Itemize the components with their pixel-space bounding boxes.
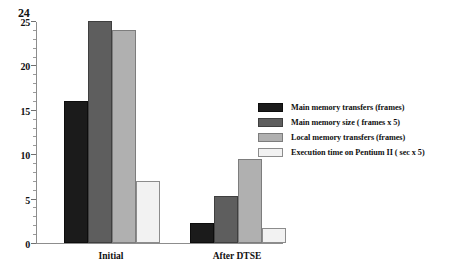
legend-item: Main memory size ( frames x 5) bbox=[258, 115, 454, 130]
x-axis-category-label: After DTSE bbox=[213, 251, 262, 261]
y-tick-minor bbox=[33, 163, 36, 164]
y-tick-minor bbox=[33, 48, 36, 49]
y-tick-minor bbox=[33, 119, 36, 120]
bar bbox=[112, 30, 136, 243]
y-tick-major bbox=[31, 110, 36, 111]
legend-swatch bbox=[258, 148, 283, 157]
legend-label: Main memory transfers (frames) bbox=[291, 103, 404, 112]
legend-label: Execution time on Pentium II ( sec x 5) bbox=[291, 148, 425, 157]
y-tick-major bbox=[31, 243, 36, 244]
y-tick-major bbox=[31, 65, 36, 66]
legend-item: Main memory transfers (frames) bbox=[258, 100, 454, 115]
y-tick-minor bbox=[33, 39, 36, 40]
bar bbox=[238, 159, 262, 243]
legend-item: Local memory transfers (frames) bbox=[258, 130, 454, 145]
y-tick-label: 15 bbox=[20, 105, 30, 116]
y-tick-minor bbox=[33, 225, 36, 226]
bar bbox=[88, 21, 112, 243]
y-tick-minor bbox=[33, 136, 36, 137]
x-axis-category-label: Initial bbox=[99, 251, 124, 261]
bar bbox=[136, 181, 160, 243]
y-tick-major bbox=[31, 21, 36, 22]
y-tick-label: 25 bbox=[20, 17, 30, 28]
bar bbox=[214, 196, 238, 243]
bar bbox=[262, 228, 286, 243]
y-tick-minor bbox=[33, 207, 36, 208]
y-tick-label: 0 bbox=[25, 239, 30, 250]
y-tick-minor bbox=[33, 172, 36, 173]
legend-label: Local memory transfers (frames) bbox=[291, 133, 405, 142]
y-tick-major bbox=[31, 199, 36, 200]
y-tick-minor bbox=[33, 57, 36, 58]
y-tick-label: 5 bbox=[25, 194, 30, 205]
bar bbox=[190, 223, 214, 243]
legend-swatch bbox=[258, 118, 283, 127]
bar-chart: 24 0510152025 InitialAfter DTSE Main mem… bbox=[0, 0, 457, 272]
legend-item: Execution time on Pentium II ( sec x 5) bbox=[258, 145, 454, 160]
x-axis-line bbox=[36, 243, 283, 244]
y-tick-label: 20 bbox=[20, 61, 30, 72]
y-tick-minor bbox=[33, 216, 36, 217]
y-tick-minor bbox=[33, 74, 36, 75]
y-tick-minor bbox=[33, 234, 36, 235]
legend-swatch bbox=[258, 133, 283, 142]
y-tick-minor bbox=[33, 83, 36, 84]
y-tick-major bbox=[31, 154, 36, 155]
legend: Main memory transfers (frames)Main memor… bbox=[258, 100, 454, 160]
y-tick-minor bbox=[33, 181, 36, 182]
y-tick-minor bbox=[33, 190, 36, 191]
legend-label: Main memory size ( frames x 5) bbox=[291, 118, 400, 127]
bars-layer bbox=[37, 22, 245, 243]
y-tick-minor bbox=[33, 101, 36, 102]
plot-area: 0510152025 InitialAfter DTSE bbox=[36, 22, 245, 244]
y-tick-minor bbox=[33, 128, 36, 129]
y-tick-label: 10 bbox=[20, 150, 30, 161]
y-tick-minor bbox=[33, 30, 36, 31]
y-tick-minor bbox=[33, 145, 36, 146]
bar bbox=[64, 101, 88, 243]
y-tick-minor bbox=[33, 92, 36, 93]
legend-swatch bbox=[258, 103, 283, 112]
